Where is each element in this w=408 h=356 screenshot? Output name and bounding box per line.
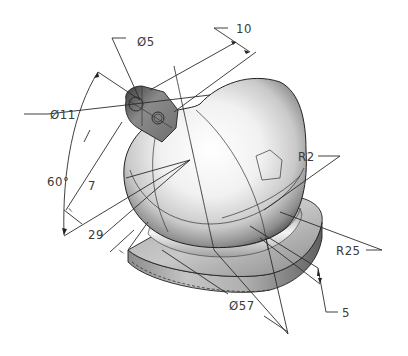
label-length-29: 29 xyxy=(88,227,104,242)
label-angle-60: 60° xyxy=(47,174,69,189)
label-base-dia-57: Ø57 xyxy=(229,298,255,313)
label-radius-r25: R25 xyxy=(336,243,361,258)
label-lug-dia-11: Ø11 xyxy=(50,107,76,122)
label-length-7: 7 xyxy=(88,178,96,193)
lug-body xyxy=(126,86,179,142)
label-offset-10: 10 xyxy=(236,21,252,36)
side-lug xyxy=(126,86,179,142)
label-hole-dia-5: Ø5 xyxy=(137,34,155,49)
label-fillet-r2: R2 xyxy=(298,149,315,164)
label-thickness-5: 5 xyxy=(342,305,350,320)
technical-drawing: Ø5 Ø11 10 60° 7 29 R2 R25 Ø57 5 xyxy=(0,0,408,356)
